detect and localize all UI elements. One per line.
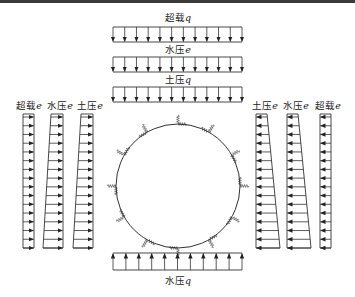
label-surcharge-e-right: 超载e xyxy=(315,100,341,111)
load-bar-water-pressure-e-top xyxy=(113,57,242,72)
radial-spring xyxy=(142,125,147,133)
spring-support xyxy=(139,125,147,137)
label-earth-pressure-e-left: 土压e xyxy=(77,100,103,111)
radial-spring xyxy=(117,216,125,221)
label-earth-pressure-e-right: 土压e xyxy=(252,100,278,111)
radial-spring xyxy=(209,125,214,133)
load-bar-surcharge-q xyxy=(113,27,242,42)
spring-support xyxy=(117,209,125,221)
spring-support xyxy=(208,235,216,247)
label-surcharge-q: 超载q xyxy=(165,12,191,23)
radial-spring xyxy=(232,217,240,222)
label-earth-pressure-q: 土压q xyxy=(165,74,191,85)
load-bar-earth-pressure-q xyxy=(113,87,242,102)
load-column-water-pressure-e-right xyxy=(287,114,311,248)
spring-support xyxy=(227,217,240,225)
radial-spring xyxy=(142,240,147,248)
radial-spring xyxy=(208,240,213,248)
spring-support xyxy=(142,240,155,248)
tunnel-lining xyxy=(107,115,249,257)
label-surcharge-e-left: 超载e xyxy=(16,100,42,111)
load-column-surcharge-e-right xyxy=(320,114,331,248)
tunnel-load-diagram: 超载q 水压e 土压q 超载e 水压e 土压e 土压e 水压e 超载e 水压q xyxy=(0,0,355,297)
load-column-earth-pressure-e-right xyxy=(256,114,280,248)
spring-support xyxy=(239,177,249,187)
load-column-water-pressure-e-left xyxy=(43,114,63,248)
radial-spring xyxy=(232,150,240,155)
spring-support xyxy=(231,150,239,162)
spring-support xyxy=(117,147,130,155)
left-load-group xyxy=(23,114,93,248)
right-load-group xyxy=(256,114,331,248)
load-column-surcharge-e-left xyxy=(23,114,34,248)
label-water-pressure-e-left: 水压e xyxy=(47,100,73,111)
label-water-pressure-e-right: 水压e xyxy=(283,100,309,111)
spring-support xyxy=(177,115,187,125)
top-load-group xyxy=(113,27,242,102)
radial-spring xyxy=(117,150,125,155)
radial-spring xyxy=(177,248,180,257)
spring-support xyxy=(107,185,117,195)
label-water-pressure-e-top: 水压e xyxy=(165,44,191,55)
label-water-pressure-q-bottom: 水压q xyxy=(165,275,191,286)
spring-support xyxy=(201,125,214,133)
spring-support xyxy=(169,247,179,257)
lining-circle xyxy=(116,124,240,248)
radial-spring xyxy=(177,115,180,124)
load-column-earth-pressure-e-left xyxy=(73,114,93,248)
